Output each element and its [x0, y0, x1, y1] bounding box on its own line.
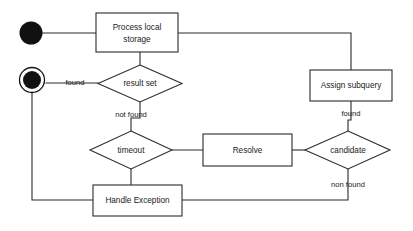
action-resolve-label: Resolve — [233, 146, 263, 155]
activity-diagram-canvas: Process local storage Assign subquery Re… — [0, 0, 413, 231]
guard-label-result-set-not-found: not found — [115, 110, 147, 119]
action-process-local-storage-label-line1: Process local — [113, 23, 162, 32]
action-process-local-storage-label-line2: storage — [123, 35, 151, 44]
edge-process-local-storage-to-assign-subquery — [178, 33, 351, 70]
edge-handle-exception-to-final — [32, 92, 93, 200]
action-process-local-storage[interactable] — [96, 13, 178, 52]
decision-candidate-label: candidate — [330, 146, 366, 155]
guard-label-result-set-found: found — [65, 78, 84, 87]
guard-label-candidate-found: found — [341, 109, 360, 118]
action-assign-subquery-label: Assign subquery — [321, 81, 382, 90]
initial-node[interactable] — [20, 22, 43, 45]
final-node[interactable] — [23, 71, 41, 89]
edge-candidate-non-found-to-handle-exception — [182, 169, 348, 200]
decision-result-set-label: result set — [123, 79, 157, 88]
decision-timeout-label: timeout — [118, 146, 146, 155]
action-handle-exception-label: Handle Exception — [105, 196, 170, 205]
activity-diagram: Process local storage Assign subquery Re… — [0, 0, 413, 231]
guard-label-candidate-non-found: non found — [331, 180, 365, 189]
